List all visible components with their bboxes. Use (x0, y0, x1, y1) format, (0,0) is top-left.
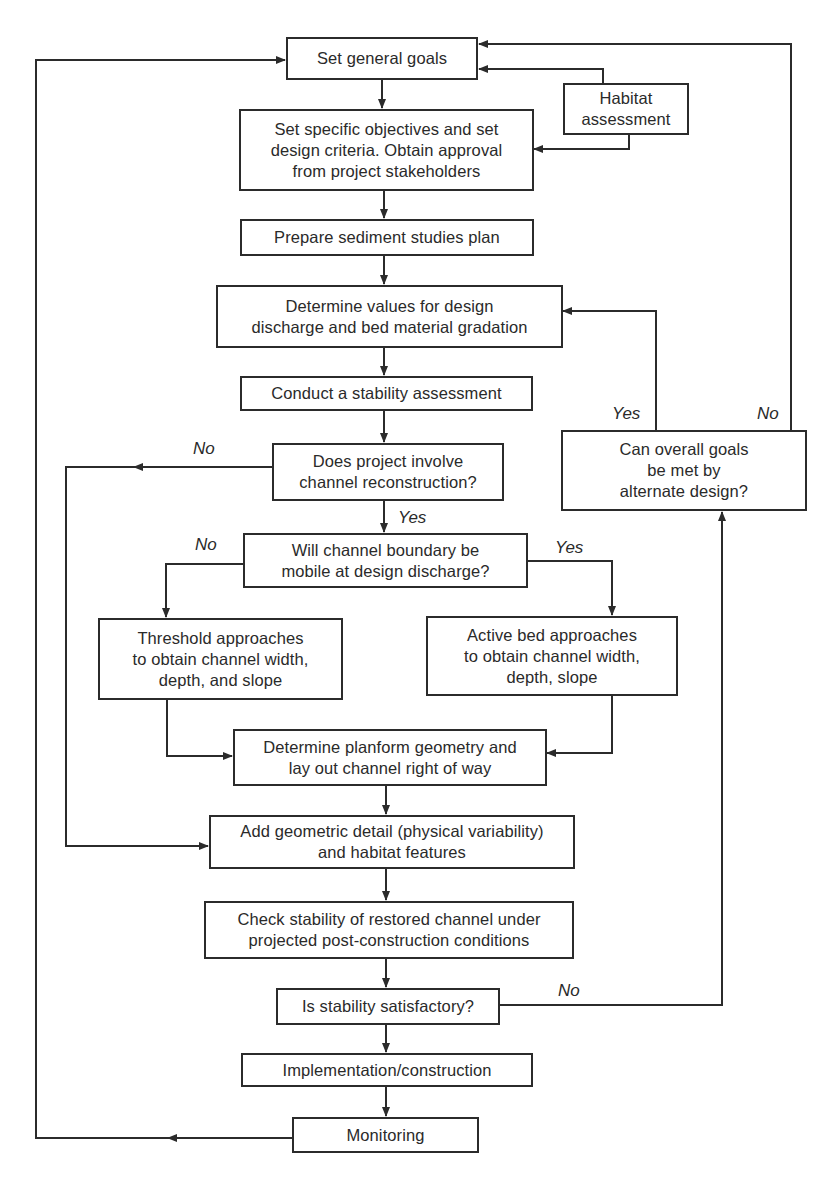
node-determine-planform: Determine planform geometry and lay out … (233, 729, 547, 786)
node-check-stability: Check stability of restored channel unde… (204, 901, 574, 959)
node-can-overall-goals: Can overall goals be met by alternate de… (561, 430, 807, 511)
edge-will-channel-yes-to-active-bed (527, 561, 612, 615)
node-monitoring: Monitoring (292, 1117, 479, 1153)
edge-can-goals-yes-to-determine-values (563, 311, 656, 430)
flowchart-canvas: Set general goals Habitat assessment Set… (0, 0, 839, 1181)
node-threshold-approaches: Threshold approaches to obtain channel w… (98, 618, 343, 700)
node-conduct-stability-assessment: Conduct a stability assessment (240, 376, 533, 411)
node-set-specific-objectives: Set specific objectives and set design c… (239, 109, 534, 191)
label-can-goals-no: No (757, 405, 779, 423)
node-will-channel-boundary: Will channel boundary be mobile at desig… (243, 533, 528, 588)
label-does-project-no: No (193, 440, 215, 458)
label-will-channel-no: No (195, 536, 217, 554)
node-active-bed-approaches: Active bed approaches to obtain channel … (426, 616, 678, 696)
node-add-geometric-detail: Add geometric detail (physical variabili… (209, 815, 575, 869)
node-is-stability-satisfactory: Is stability satisfactory? (276, 988, 500, 1025)
node-implementation: Implementation/construction (241, 1053, 533, 1087)
label-will-channel-yes: Yes (555, 539, 583, 557)
node-determine-values: Determine values for design discharge an… (216, 285, 563, 348)
label-does-project-yes: Yes (398, 509, 426, 527)
node-set-general-goals: Set general goals (286, 37, 478, 80)
edge-habitat-to-objectives (534, 134, 629, 149)
label-can-goals-yes: Yes (612, 405, 640, 423)
node-prepare-sediment-plan: Prepare sediment studies plan (240, 219, 534, 256)
node-habitat-assessment: Habitat assessment (563, 83, 689, 135)
edge-will-channel-no-to-threshold (166, 564, 243, 617)
edge-threshold-to-planform (167, 699, 232, 756)
edge-habitat-to-goals (479, 69, 603, 83)
edge-active-bed-to-planform (547, 695, 612, 753)
label-stability-no: No (558, 982, 580, 1000)
node-does-project-involve: Does project involve channel reconstruct… (272, 443, 504, 501)
